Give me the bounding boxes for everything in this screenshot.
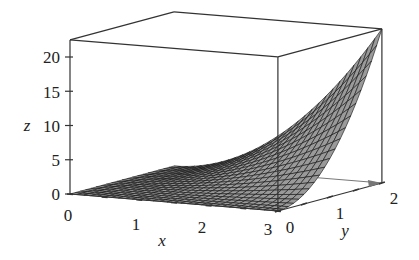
surface-patch — [370, 29, 382, 54]
box-top-back-edge — [174, 12, 382, 29]
x-axis-title: x — [157, 231, 166, 250]
y-tick-label-0: 0 — [286, 218, 295, 237]
box-top-front-edge — [70, 40, 278, 57]
x-tick-label-3: 3 — [264, 220, 273, 239]
z-tick-label-5: 5 — [52, 151, 61, 170]
z-tick-label-20: 20 — [43, 48, 60, 67]
box-top-left-edge — [70, 12, 174, 40]
y-tick — [379, 182, 385, 184]
surface-plot: 20 15 10 5 0 z 0 1 2 3 x 0 1 2 y — [0, 0, 419, 260]
z-tick-label-10: 10 — [43, 117, 60, 136]
x-tick — [67, 194, 73, 195]
z-tick-label-15: 15 — [43, 83, 60, 102]
y-axis-title: y — [339, 221, 349, 240]
y-tick — [301, 203, 307, 205]
surface-mesh — [70, 29, 382, 211]
x-tick — [136, 200, 142, 201]
y-tick — [353, 189, 359, 191]
x-tick-label-2: 2 — [198, 218, 207, 237]
y-tick-label-2: 2 — [390, 189, 399, 208]
y-tick — [327, 196, 333, 198]
x-tick-label-0: 0 — [64, 206, 73, 225]
x-tick — [102, 197, 108, 198]
x-tick — [240, 208, 246, 209]
x-tick — [171, 203, 177, 204]
x-tick-label-1: 1 — [132, 215, 141, 234]
z-tick-label-0: 0 — [52, 185, 61, 204]
x-tick — [206, 205, 212, 206]
z-axis-title: z — [23, 116, 31, 135]
